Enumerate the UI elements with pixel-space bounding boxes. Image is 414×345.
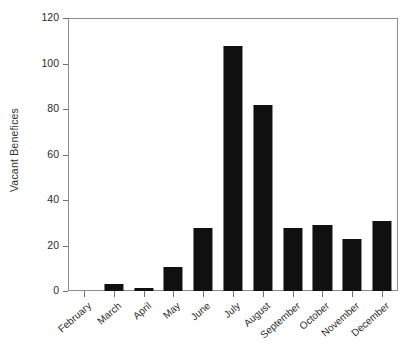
bar: [104, 284, 123, 291]
y-tick: 40: [0, 200, 68, 201]
x-tick-mark: [322, 291, 323, 297]
bar-slot: [158, 19, 188, 291]
x-tick-label: March: [95, 300, 123, 327]
bar-slot: [248, 19, 278, 291]
y-tick: 20: [0, 246, 68, 247]
bar-slot: [129, 19, 159, 291]
y-tick-label: 80: [47, 102, 59, 115]
y-tick-label: 0: [53, 284, 59, 297]
y-tick-label: 120: [41, 11, 59, 24]
y-tick-mark: [63, 291, 68, 292]
x-tick-mark: [173, 291, 174, 297]
bar-slot: [99, 19, 129, 291]
bar-chart: Vacant Benefices 020406080100120 Februar…: [0, 0, 414, 345]
bar: [283, 228, 302, 291]
bars-layer: [69, 19, 397, 291]
x-tick-label: February: [56, 300, 93, 335]
y-tick: 60: [0, 155, 68, 156]
y-tick-label: 100: [41, 57, 59, 70]
x-tick-label: May: [161, 300, 182, 321]
y-tick-label: 40: [47, 193, 59, 206]
bar-slot: [188, 19, 218, 291]
bar: [253, 105, 272, 291]
x-tick-mark: [293, 291, 294, 297]
y-tick: 100: [0, 64, 68, 65]
x-tick-mark: [114, 291, 115, 297]
bar: [343, 239, 362, 291]
y-tick-label: 60: [47, 148, 59, 161]
y-tick: 120: [0, 18, 68, 19]
y-axis-title: Vacant Benefices: [0, 0, 28, 300]
x-tick-label: April: [130, 300, 152, 321]
bar: [194, 228, 213, 291]
y-tick: 0: [0, 291, 68, 292]
y-axis-title-text: Vacant Benefices: [8, 108, 20, 192]
bar-slot: [278, 19, 308, 291]
x-tick-label: July: [222, 300, 243, 320]
bar-slot: [218, 19, 248, 291]
x-tick-mark: [144, 291, 145, 297]
bar: [373, 221, 392, 291]
x-tick-mark: [263, 291, 264, 297]
bar-slot: [367, 19, 397, 291]
x-tick-mark: [233, 291, 234, 297]
bar: [313, 225, 332, 291]
bar: [223, 46, 242, 291]
x-tick-label: June: [189, 300, 213, 323]
x-tick-mark: [84, 291, 85, 297]
bar-slot: [308, 19, 338, 291]
x-tick-mark: [352, 291, 353, 297]
y-tick-label: 20: [47, 239, 59, 252]
y-tick: 80: [0, 109, 68, 110]
bar-slot: [337, 19, 367, 291]
bar: [164, 267, 183, 291]
x-tick-mark: [203, 291, 204, 297]
bar-slot: [69, 19, 99, 291]
x-tick-mark: [382, 291, 383, 297]
